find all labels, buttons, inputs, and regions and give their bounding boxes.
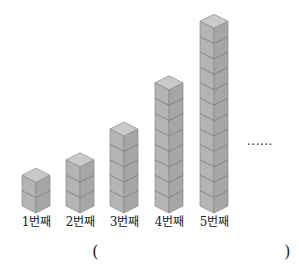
stack-label-1: 1번째: [14, 214, 58, 230]
cube-stack-1: [22, 168, 50, 213]
cube-stack-3: [110, 122, 138, 213]
stack-label-2: 2번째: [58, 214, 102, 230]
stack-label-3: 3번째: [102, 214, 146, 230]
cube-stack-2: [66, 153, 94, 213]
stack-label-4: 4번째: [147, 214, 191, 230]
cube-stack-4: [155, 76, 183, 213]
answer-paren-close: ): [284, 240, 291, 262]
cube-stack-5: [200, 14, 228, 213]
continuation-ellipsis: ......: [247, 134, 273, 148]
answer-paren-open: (: [92, 240, 99, 262]
stack-label-5: 5번째: [192, 214, 236, 230]
